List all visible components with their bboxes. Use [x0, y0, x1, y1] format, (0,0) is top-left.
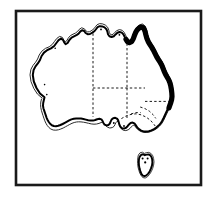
tasmania-dot: [142, 158, 144, 160]
coast-dot: [123, 125, 125, 127]
coast-dot: [46, 94, 48, 96]
map-svg: [0, 0, 216, 206]
coast-dot: [113, 122, 115, 124]
coast-dot: [54, 47, 56, 49]
coast-dot: [119, 34, 121, 36]
australia-map-figure: [0, 0, 216, 206]
coast-dot: [44, 84, 46, 86]
tasmania-dot: [144, 161, 146, 163]
coast-dot: [100, 29, 102, 31]
tasmania-dot: [147, 158, 149, 160]
